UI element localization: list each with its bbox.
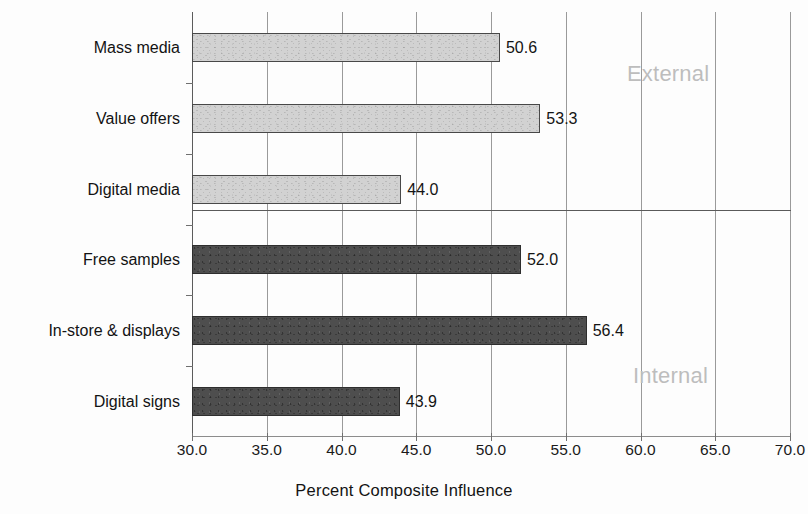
category-label-digital-media: Digital media	[88, 182, 180, 198]
category-label-free-samples: Free samples	[83, 252, 180, 268]
y-tick-mark	[186, 366, 193, 367]
x-tick-label: 35.0	[251, 441, 282, 459]
x-tick-mark	[566, 433, 567, 441]
gridline-50.0	[491, 12, 492, 437]
bar-value-label: 43.9	[406, 394, 437, 410]
y-tick-mark	[186, 295, 193, 296]
x-tick-mark	[192, 433, 193, 441]
x-tick-mark	[416, 433, 417, 441]
gridline-45.0	[416, 12, 417, 437]
bar-mass-media	[192, 33, 500, 62]
bar-value-label: 56.4	[593, 323, 624, 339]
x-tick-mark	[491, 433, 492, 441]
category-label-value-offers: Value offers	[96, 111, 180, 127]
x-tick-label: 40.0	[326, 441, 357, 459]
y-tick-mark	[186, 154, 193, 155]
bar-value-offers	[192, 104, 540, 133]
x-tick-label: 50.0	[476, 441, 507, 459]
group-divider-line	[192, 210, 791, 211]
x-tick-mark	[267, 433, 268, 441]
x-tick-mark	[342, 433, 343, 441]
x-tick-label: 60.0	[625, 441, 656, 459]
category-label-mass-media: Mass media	[94, 40, 180, 56]
x-tick-mark	[715, 433, 716, 441]
y-tick-mark	[186, 83, 193, 84]
bar-free-samples	[192, 245, 521, 274]
x-tick-label: 70.0	[775, 441, 806, 459]
gridline-55.0	[566, 12, 567, 437]
bar-value-label: 50.6	[506, 40, 537, 56]
category-label-in-store-displays: In-store & displays	[48, 323, 180, 339]
group-annotation-external: External	[627, 63, 709, 85]
gridline-70.0	[790, 12, 791, 437]
x-tick-label: 30.0	[177, 441, 208, 459]
bar-value-label: 44.0	[407, 182, 438, 198]
x-tick-label: 45.0	[401, 441, 432, 459]
bar-value-label: 53.3	[546, 111, 577, 127]
bar-digital-signs	[192, 387, 400, 416]
group-annotation-internal: Internal	[633, 365, 708, 387]
bar-chart: 30.035.040.045.050.055.060.065.070.0 50.…	[0, 0, 808, 514]
x-axis-title: Percent Composite Influence	[0, 481, 808, 500]
category-label-digital-signs: Digital signs	[94, 394, 180, 410]
y-tick-mark	[186, 225, 193, 226]
bar-in-store-displays	[192, 316, 587, 345]
bar-value-label: 52.0	[527, 252, 558, 268]
x-tick-label: 55.0	[550, 441, 581, 459]
x-tick-label: 65.0	[700, 441, 731, 459]
gridline-65.0	[715, 12, 716, 437]
gridline-40.0	[342, 12, 343, 437]
x-tick-mark	[641, 433, 642, 441]
bar-digital-media	[192, 175, 401, 204]
gridline-35.0	[267, 12, 268, 437]
x-tick-mark	[790, 433, 791, 441]
